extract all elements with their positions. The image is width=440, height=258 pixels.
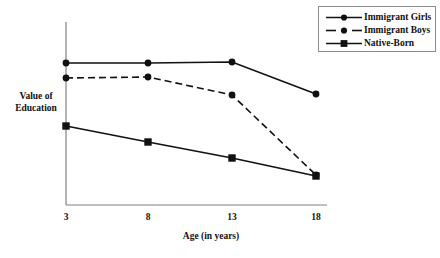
data-point [145, 74, 152, 81]
legend-label-1: Immigrant Boys [364, 25, 430, 35]
data-point [63, 75, 70, 82]
legend-swatch-solid-square-icon [325, 37, 363, 50]
legend-swatch-solid-circle-icon [325, 11, 363, 24]
data-point [145, 60, 152, 67]
data-point [229, 59, 236, 66]
chart-legend: Immigrant Girls Immigrant Boys [318, 6, 436, 52]
data-point [313, 91, 320, 98]
data-point [63, 60, 70, 67]
legend-label-2: Native-Born [364, 38, 414, 48]
series-line-immigrant-boys [66, 77, 316, 175]
series-line-native-born [66, 126, 316, 176]
legend-label-0: Immigrant Girls [364, 12, 431, 22]
data-point [312, 172, 319, 179]
series-markers [62, 59, 319, 180]
legend-item-immigrant-girls: Immigrant Girls [325, 10, 431, 24]
y-axis-title: Value of Education [8, 90, 64, 114]
y-axis-title-line2: Education [8, 102, 64, 114]
data-point [228, 154, 235, 161]
x-axis-title: Age (in years) [146, 231, 276, 241]
data-point [229, 92, 236, 99]
data-point [144, 138, 151, 145]
legend-item-immigrant-boys: Immigrant Boys [325, 23, 430, 37]
x-tick-label-2: 13 [217, 212, 247, 222]
data-point [62, 122, 69, 129]
x-tick-label-3: 18 [301, 212, 331, 222]
legend-swatch-dashed-circle-icon [325, 24, 363, 37]
x-tick-label-1: 8 [133, 212, 163, 222]
x-tick-label-0: 3 [51, 212, 81, 222]
chart-figure: 3 8 13 18 Age (in years) Value of Educat… [0, 0, 440, 258]
legend-item-native-born: Native-Born [325, 36, 414, 50]
y-axis-title-line1: Value of [19, 91, 52, 101]
